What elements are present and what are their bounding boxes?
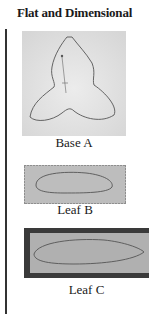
margin-rule xyxy=(5,29,7,314)
leaf-b-caption: Leaf B xyxy=(24,202,126,218)
leaf-c-image xyxy=(24,228,149,278)
base-a-caption: Base A xyxy=(22,135,126,151)
base-a-image xyxy=(22,31,126,136)
leaf-b-image xyxy=(24,165,126,204)
leaf-c-caption: Leaf C xyxy=(24,282,149,298)
page-title: Flat and Dimensional xyxy=(0,5,149,21)
